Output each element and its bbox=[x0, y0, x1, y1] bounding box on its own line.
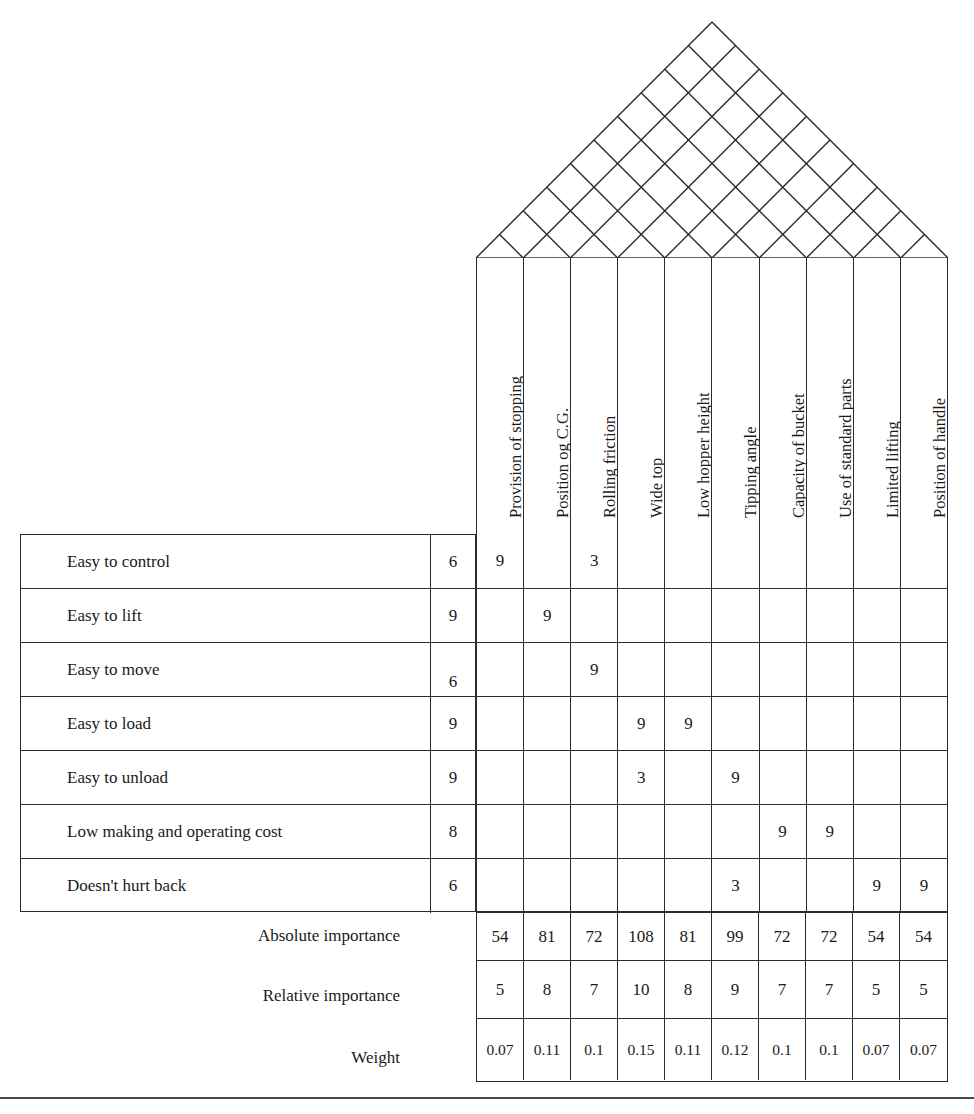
table-row: Easy to lift 9 bbox=[21, 589, 475, 643]
summary-labels: Absolute importance Relative importance … bbox=[20, 912, 476, 1098]
customer-requirement-label: Low making and operating cost bbox=[21, 805, 431, 858]
matrix-cell bbox=[759, 697, 806, 750]
customer-requirement-label: Easy to load bbox=[21, 697, 431, 750]
relative-importance-cell: 5 bbox=[900, 961, 947, 1018]
matrix-cell: 3 bbox=[617, 751, 664, 804]
absolute-importance-cell: 99 bbox=[712, 913, 759, 960]
matrix-cell bbox=[664, 643, 711, 696]
matrix-cell: 3 bbox=[711, 859, 758, 912]
tr-header-label: Use of standard parts bbox=[838, 378, 854, 518]
customer-requirements-table: Easy to control 6 Easy to lift 9 Easy to… bbox=[20, 534, 476, 912]
matrix-cell bbox=[759, 751, 806, 804]
weight-cell: 0.11 bbox=[665, 1019, 712, 1080]
tr-header-label: Tipping angle bbox=[743, 426, 759, 518]
matrix-cell bbox=[523, 534, 570, 588]
tr-header-cell: Capacity of bucket bbox=[760, 258, 807, 534]
matrix-cell: 9 bbox=[853, 859, 900, 912]
tr-header-cell: Provision of stopping bbox=[477, 258, 524, 534]
absolute-importance-cell: 54 bbox=[853, 913, 900, 960]
matrix-cell bbox=[664, 859, 711, 912]
matrix-cell bbox=[759, 859, 806, 912]
weight-cell: 0.15 bbox=[618, 1019, 665, 1080]
tr-header-cell: Wide top bbox=[618, 258, 665, 534]
matrix-cell bbox=[570, 859, 617, 912]
matrix-cell bbox=[664, 589, 711, 642]
weight-cell: 0.1 bbox=[759, 1019, 806, 1080]
matrix-cell: 9 bbox=[900, 859, 947, 912]
matrix-cell bbox=[570, 751, 617, 804]
matrix-cell: 9 bbox=[570, 643, 617, 696]
customer-importance-value: 9 bbox=[431, 589, 475, 642]
customer-importance-value: 9 bbox=[431, 697, 475, 750]
tr-header-label: Limited lifting bbox=[885, 421, 901, 518]
tr-header-cell: Limited lifting bbox=[854, 258, 901, 534]
matrix-cell bbox=[900, 751, 947, 804]
matrix-cell bbox=[570, 697, 617, 750]
summary-grid: 54 81 72 108 81 99 72 72 54 54 5 8 7 10 … bbox=[476, 912, 948, 1082]
absolute-importance-cell: 72 bbox=[806, 913, 853, 960]
matrix-cell bbox=[900, 534, 947, 588]
absolute-importance-cell: 72 bbox=[571, 913, 618, 960]
relative-importance-row: 5 8 7 10 8 9 7 7 5 5 bbox=[477, 960, 947, 1018]
customer-requirement-label: Doesn't hurt back bbox=[21, 859, 431, 913]
customer-requirement-label: Easy to unload bbox=[21, 751, 431, 804]
matrix-cell: 3 bbox=[570, 534, 617, 588]
matrix-cell bbox=[806, 534, 853, 588]
tr-header-label: Low hopper height bbox=[696, 392, 712, 518]
tr-header-cell: Rolling friction bbox=[571, 258, 618, 534]
matrix-cell: 9 bbox=[711, 751, 758, 804]
table-row: Easy to load 9 bbox=[21, 697, 475, 751]
tr-header-label: Rolling friction bbox=[602, 415, 618, 517]
matrix-cell bbox=[806, 859, 853, 912]
tr-header-cell: Low hopper height bbox=[665, 258, 712, 534]
relative-importance-cell: 10 bbox=[618, 961, 665, 1018]
matrix-cell bbox=[523, 859, 570, 912]
matrix-row: 9 3 bbox=[476, 534, 947, 588]
matrix-cell bbox=[476, 751, 523, 804]
matrix-cell: 9 bbox=[664, 697, 711, 750]
matrix-cell bbox=[617, 589, 664, 642]
matrix-cell bbox=[523, 805, 570, 858]
matrix-cell bbox=[570, 805, 617, 858]
matrix-row: 9 bbox=[476, 642, 947, 696]
matrix-cell bbox=[711, 697, 758, 750]
matrix-cell: 9 bbox=[476, 534, 523, 588]
matrix-cell bbox=[617, 534, 664, 588]
matrix-cell bbox=[523, 697, 570, 750]
customer-importance-value: 8 bbox=[431, 805, 475, 858]
relative-importance-label: Relative importance bbox=[263, 986, 400, 1006]
tr-header-label: Wide top bbox=[649, 457, 665, 517]
matrix-cell bbox=[664, 751, 711, 804]
page-bottom-rule bbox=[0, 1097, 974, 1099]
matrix-cell bbox=[853, 697, 900, 750]
matrix-cell bbox=[711, 589, 758, 642]
absolute-importance-cell: 54 bbox=[477, 913, 524, 960]
relative-importance-cell: 7 bbox=[571, 961, 618, 1018]
absolute-importance-cell: 54 bbox=[900, 913, 947, 960]
table-row: Easy to control 6 bbox=[21, 535, 475, 589]
weight-cell: 0.07 bbox=[477, 1019, 524, 1080]
tr-header-cell: Use of standard parts bbox=[807, 258, 854, 534]
matrix-cell bbox=[900, 805, 947, 858]
customer-requirement-label: Easy to control bbox=[21, 535, 431, 588]
matrix-row: 9 9 bbox=[476, 696, 947, 750]
matrix-cell bbox=[853, 751, 900, 804]
relative-importance-cell: 7 bbox=[806, 961, 853, 1018]
table-row: Easy to unload 9 bbox=[21, 751, 475, 805]
matrix-row: 9 bbox=[476, 588, 947, 642]
tr-header-cell: Position of handle bbox=[901, 258, 948, 534]
matrix-cell: 9 bbox=[617, 697, 664, 750]
tr-header-label: Position of handle bbox=[932, 397, 948, 517]
matrix-row: 9 9 bbox=[476, 804, 947, 858]
absolute-importance-cell: 81 bbox=[665, 913, 712, 960]
matrix-cell bbox=[853, 805, 900, 858]
correlation-roof-svg bbox=[476, 18, 948, 258]
customer-requirement-label: Easy to move bbox=[21, 643, 431, 696]
weight-cell: 0.1 bbox=[571, 1019, 618, 1080]
customer-importance-value: 6 bbox=[431, 535, 475, 588]
matrix-cell bbox=[759, 589, 806, 642]
customer-importance-value: 6 bbox=[431, 859, 475, 913]
matrix-cell bbox=[617, 643, 664, 696]
matrix-cell bbox=[806, 751, 853, 804]
absolute-importance-cell: 81 bbox=[524, 913, 571, 960]
